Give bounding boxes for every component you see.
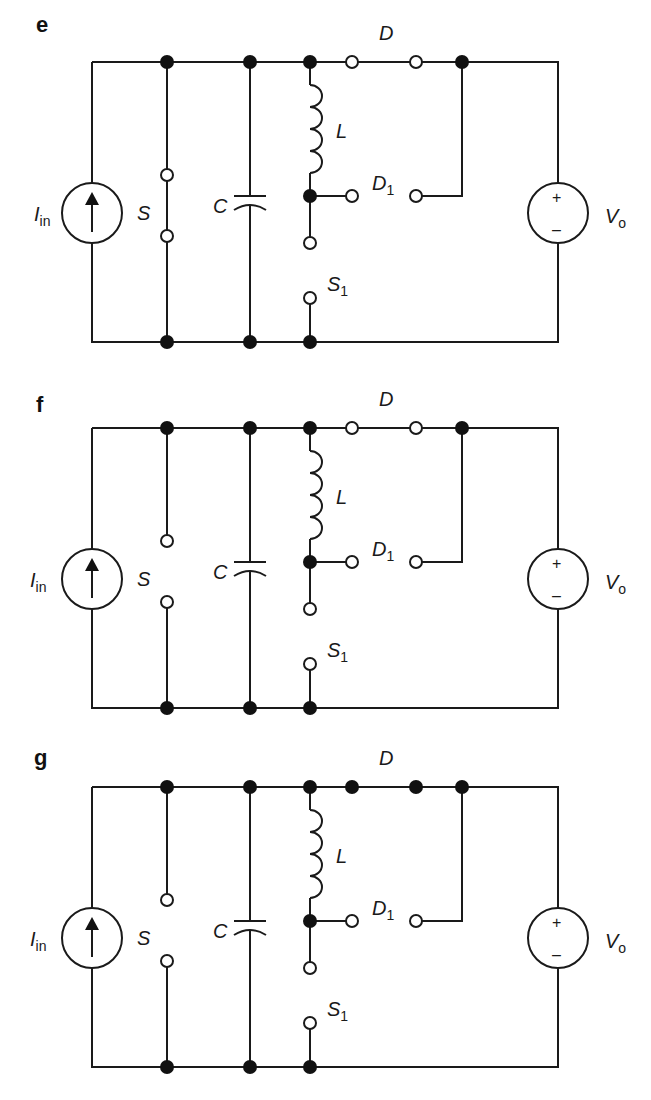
wire-loop — [92, 787, 558, 1067]
plus-sign: + — [552, 914, 561, 931]
switch-s1 — [304, 237, 316, 342]
label-l: L — [336, 486, 347, 508]
panel-label: g — [34, 745, 47, 770]
label-d: D — [379, 388, 393, 410]
switch-s — [161, 428, 173, 708]
node-dots — [160, 780, 469, 1074]
panel-e: e Iin S C — [34, 12, 626, 349]
panel-label: e — [36, 12, 48, 37]
minus-sign: – — [552, 221, 561, 238]
switch-s — [161, 787, 173, 1067]
panel-label: f — [36, 392, 44, 417]
node-dots — [160, 421, 469, 715]
inductor-icon — [310, 787, 322, 962]
label-iin: Iin — [34, 203, 50, 229]
label-iin: Iin — [30, 928, 46, 954]
label-d1: D1 — [372, 172, 394, 198]
label-c: C — [213, 561, 228, 583]
label-c: C — [213, 920, 228, 942]
wire-loop — [92, 62, 558, 342]
label-l: L — [336, 120, 347, 142]
current-source-icon — [62, 908, 122, 968]
capacitor-icon — [234, 787, 266, 1067]
label-d: D — [379, 22, 393, 44]
capacitor-icon — [234, 428, 266, 708]
label-iin: Iin — [30, 569, 46, 595]
label-d1: D1 — [372, 538, 394, 564]
label-vo: Vo — [605, 205, 626, 231]
plus-sign: + — [552, 189, 561, 206]
label-vo: Vo — [605, 930, 626, 956]
minus-sign: – — [552, 587, 561, 604]
label-s1: S1 — [327, 998, 348, 1024]
switch-s1 — [304, 962, 316, 1067]
minus-sign: – — [552, 946, 561, 963]
label-s: S — [137, 202, 151, 224]
switch-s — [161, 62, 173, 342]
wire-loop — [92, 428, 558, 708]
panel-f: f Iin S C L — [30, 388, 626, 715]
label-s: S — [137, 568, 151, 590]
capacitor-icon — [234, 62, 266, 342]
inductor-icon — [310, 62, 322, 237]
current-source-icon — [62, 549, 122, 609]
voltage-source-icon: + – — [528, 549, 588, 609]
inductor-icon — [310, 428, 322, 603]
voltage-source-icon: + – — [528, 183, 588, 243]
label-d1: D1 — [372, 897, 394, 923]
label-s1: S1 — [327, 273, 348, 299]
switch-s1 — [304, 603, 316, 708]
voltage-source-icon: + – — [528, 908, 588, 968]
label-vo: Vo — [605, 571, 626, 597]
label-s1: S1 — [327, 639, 348, 665]
circuit-figure: e Iin S C — [0, 0, 651, 1100]
label-d: D — [379, 747, 393, 769]
label-c: C — [213, 195, 228, 217]
label-l: L — [336, 845, 347, 867]
plus-sign: + — [552, 555, 561, 572]
current-source-icon — [62, 183, 122, 243]
node-dots — [160, 55, 469, 349]
label-s: S — [137, 927, 151, 949]
panel-g: g Iin S C L — [30, 745, 626, 1074]
